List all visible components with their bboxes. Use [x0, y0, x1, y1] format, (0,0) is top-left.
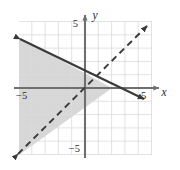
y-axis-tick-positive: 5	[73, 18, 78, 29]
y-axis-label: y	[91, 9, 98, 22]
x-axis-label: x	[160, 86, 167, 98]
coordinate-plane-svg: 5 −5 −5 5 x y	[0, 0, 180, 170]
x-axis-tick-positive: 5	[141, 90, 146, 101]
x-axis-tick-negative: −5	[16, 90, 27, 101]
y-axis-tick-negative: −5	[69, 143, 80, 154]
graph-figure: 5 −5 −5 5 x y	[0, 0, 180, 170]
